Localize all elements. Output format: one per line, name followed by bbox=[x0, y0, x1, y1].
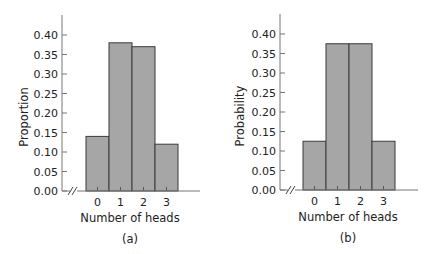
bar-1 bbox=[326, 44, 349, 190]
x-tick-label: 3 bbox=[380, 195, 387, 208]
x-axis-title: Number of heads bbox=[80, 211, 179, 225]
y-tick-label: 0.35 bbox=[34, 49, 59, 62]
y-tick-label: 0.30 bbox=[252, 67, 277, 80]
y-tick-label: 0.15 bbox=[252, 126, 277, 139]
bar-0 bbox=[303, 141, 326, 190]
bar-2 bbox=[349, 44, 372, 190]
y-tick-label: 0.10 bbox=[252, 145, 277, 158]
bar-3 bbox=[155, 144, 178, 191]
x-tick-label: 2 bbox=[357, 195, 364, 208]
y-axis-title: Probability bbox=[233, 85, 247, 146]
y-tick-label: 0.00 bbox=[252, 184, 277, 197]
bar-2 bbox=[132, 47, 155, 191]
x-tick-label: 0 bbox=[94, 196, 101, 209]
y-tick-label: 0.05 bbox=[34, 166, 59, 179]
y-tick-label: 0.20 bbox=[252, 106, 277, 119]
figure: 01230.000.050.100.150.200.250.300.350.40… bbox=[0, 0, 427, 254]
chart-panel-a: 01230.000.050.100.150.200.250.300.350.40… bbox=[17, 15, 200, 246]
y-tick-label: 0.25 bbox=[34, 88, 59, 101]
y-tick-label: 0.25 bbox=[252, 87, 277, 100]
y-tick-label: 0.40 bbox=[252, 28, 277, 41]
x-tick-label: 2 bbox=[140, 196, 147, 209]
bar-0 bbox=[86, 136, 109, 191]
y-tick-label: 0.05 bbox=[252, 165, 277, 178]
y-tick-label: 0.20 bbox=[34, 107, 59, 120]
x-tick-label: 1 bbox=[117, 196, 124, 209]
y-tick-label: 0.35 bbox=[252, 48, 277, 61]
bar-3 bbox=[372, 141, 395, 190]
x-tick-label: 1 bbox=[334, 195, 341, 208]
y-tick-label: 0.15 bbox=[34, 127, 59, 140]
panel-label: (b) bbox=[340, 231, 356, 245]
y-tick-label: 0.00 bbox=[34, 185, 59, 198]
panel-label: (a) bbox=[122, 232, 138, 246]
x-tick-label: 0 bbox=[311, 195, 318, 208]
y-tick-label: 0.10 bbox=[34, 146, 59, 159]
x-axis-title: Number of heads bbox=[298, 210, 397, 224]
chart-panel-b: 01230.000.050.100.150.200.250.300.350.40… bbox=[233, 14, 418, 245]
x-tick-label: 3 bbox=[163, 196, 170, 209]
y-tick-label: 0.40 bbox=[34, 29, 59, 42]
y-axis-title: Proportion bbox=[17, 87, 31, 146]
y-tick-label: 0.30 bbox=[34, 68, 59, 81]
bar-1 bbox=[109, 43, 132, 191]
